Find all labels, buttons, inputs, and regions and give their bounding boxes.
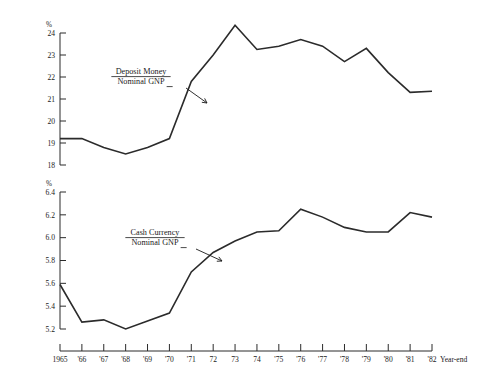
annotation-denominator-top: Nominal GNP [117,77,165,86]
x-tick-label-13: '78 [340,355,349,364]
series-line-top [60,25,432,154]
y-unit-label-bottom: % [46,180,52,188]
y-tick-label-top-1: 19 [47,139,55,148]
y-tick-label-bottom-4: 6.0 [46,233,56,242]
x-tick-label-1: '66 [77,355,86,364]
y-tick-label-top-5: 23 [47,51,55,60]
x-tick-label-11: '76 [296,355,305,364]
y-tick-label-bottom-1: 5.4 [46,302,56,311]
series-line-bottom [60,209,432,329]
x-tick-label-5: '70 [165,355,174,364]
y-tick-label-bottom-3: 5.8 [46,256,56,265]
x-tick-label-8: 73 [231,355,239,364]
x-tick-label-14: '79 [362,355,371,364]
chart-figure: 18192021222324%Deposit MoneyNominal GNP5… [0,0,490,380]
x-tick-label-12: '77 [318,355,327,364]
y-unit-label-top: % [46,21,52,29]
x-tick-label-10: '75 [274,355,283,364]
x-tick-label-7: 72 [209,355,217,364]
x-tick-label-15: '80 [384,355,393,364]
x-tick-label-4: '69 [143,355,152,364]
x-tick-label-16: '81 [406,355,415,364]
x-tick-label-9: 74 [253,355,261,364]
y-tick-label-top-2: 20 [47,117,55,126]
chart-canvas: 18192021222324%Deposit MoneyNominal GNP5… [0,0,490,380]
y-tick-label-bottom-6: 6.4 [46,188,56,197]
annotation-arrow-top [186,88,207,103]
x-tick-label-3: '68 [121,355,130,364]
y-tick-label-top-4: 22 [47,73,55,82]
y-tick-label-top-3: 21 [47,95,55,104]
annotation-denominator-bottom: Nominal GNP [131,238,179,247]
x-tick-label-17: '82 [428,355,437,364]
y-tick-label-top-0: 18 [47,161,55,170]
y-tick-label-bottom-2: 5.6 [46,279,56,288]
x-tick-label-2: '67 [99,355,108,364]
y-tick-label-bottom-0: 5.2 [46,325,56,334]
y-tick-label-top-6: 24 [47,29,55,38]
y-tick-label-bottom-5: 6.2 [46,211,56,220]
x-tick-label-0: 1965 [52,355,67,364]
x-axis-caption: Year-end [440,355,468,364]
annotation-numerator-top: Deposit Money [116,67,168,76]
x-tick-label-6: '71 [187,355,196,364]
annotation-numerator-bottom: Cash Currency [131,228,181,237]
